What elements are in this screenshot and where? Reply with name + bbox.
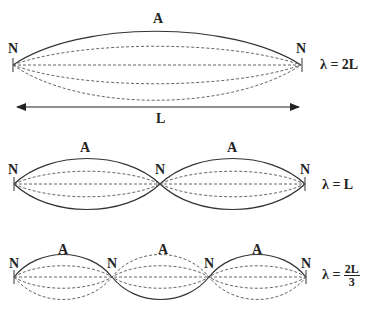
antinode-label: A — [158, 243, 168, 257]
equation-value: L — [344, 177, 353, 192]
node-label: N — [204, 257, 214, 271]
antinode-label: A — [80, 141, 90, 155]
equation-lhs: λ = — [322, 267, 344, 282]
node-label: N — [301, 257, 311, 271]
antinode-label: A — [252, 243, 262, 257]
wavelength-equation: λ = L — [322, 178, 353, 192]
antinode-label: A — [153, 12, 163, 26]
antinode-label: A — [58, 243, 68, 257]
antinode-label: A — [227, 141, 237, 155]
wavelength-equation: λ = 2L3 — [322, 263, 360, 288]
node-label: N — [107, 257, 117, 271]
node-label: N — [296, 42, 306, 56]
node-label: N — [300, 163, 310, 177]
standing-waves-diagram — [0, 0, 368, 311]
length-label: L — [156, 112, 165, 126]
equation-lhs: λ = — [320, 57, 342, 72]
fundamental-wave — [13, 31, 302, 107]
node-label: N — [9, 257, 19, 271]
third-harmonic-wave — [14, 255, 306, 300]
node-label: N — [8, 42, 18, 56]
fraction: 2L3 — [344, 263, 360, 288]
node-label: N — [155, 163, 165, 177]
denominator: 3 — [344, 276, 360, 288]
wavelength-equation: λ = 2L — [320, 58, 358, 72]
node-label: N — [8, 163, 18, 177]
equation-value: 2L — [342, 57, 358, 72]
equation-lhs: λ = — [322, 177, 344, 192]
